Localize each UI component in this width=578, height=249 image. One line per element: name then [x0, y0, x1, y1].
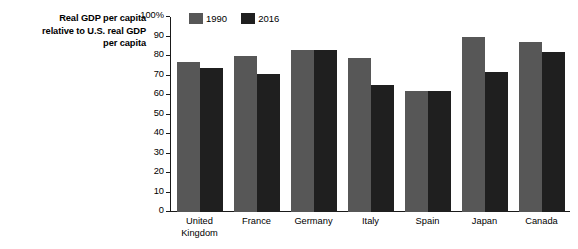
y-tick-label: 50 — [154, 107, 164, 120]
y-tick-60: 60 — [126, 94, 170, 95]
x-axis-label: Canada — [497, 215, 578, 227]
bar — [519, 42, 542, 212]
y-tick-30: 30 — [126, 153, 170, 154]
x-axis-label-line: Kingdom — [155, 227, 245, 239]
bar-group — [348, 17, 394, 212]
y-tick-label: 10 — [154, 185, 164, 198]
y-tick-40: 40 — [126, 133, 170, 134]
y-tick-label: 80 — [154, 48, 164, 61]
y-tick-20: 20 — [126, 172, 170, 173]
bar — [200, 68, 223, 212]
bar-group — [462, 17, 508, 212]
y-axis-label-line-3: per capita — [8, 37, 146, 50]
y-tick-mark — [166, 16, 170, 17]
y-tick-10: 10 — [126, 192, 170, 193]
bar — [291, 50, 314, 212]
y-tick-label: 40 — [154, 126, 164, 139]
y-tick-mark — [166, 75, 170, 76]
y-tick-100: 100% — [126, 16, 170, 17]
y-tick-label: 30 — [154, 146, 164, 159]
y-tick-label: 100% — [140, 9, 164, 22]
bar-group — [519, 17, 565, 212]
y-tick-label: 60 — [154, 87, 164, 100]
y-tick-label: 20 — [154, 165, 164, 178]
y-tick-mark — [166, 55, 170, 56]
y-tick-mark — [166, 192, 170, 193]
y-tick-label: 90 — [154, 29, 164, 42]
plot-area: 0102030405060708090100% UnitedKingdomFra… — [170, 17, 570, 212]
y-tick-mark — [166, 153, 170, 154]
y-tick-mark — [166, 94, 170, 95]
bar — [314, 50, 337, 212]
bar — [462, 37, 485, 213]
y-tick-mark — [166, 172, 170, 173]
bar — [234, 56, 257, 212]
y-tick-mark — [166, 133, 170, 134]
y-axis-label-line-1: Real GDP per capita — [8, 12, 146, 25]
y-axis-label: Real GDP per capita relative to U.S. rea… — [8, 12, 146, 50]
bar — [348, 58, 371, 212]
y-tick-50: 50 — [126, 114, 170, 115]
x-axis-label-line: Canada — [497, 215, 578, 227]
bar-group — [291, 17, 337, 212]
bar-group — [234, 17, 280, 212]
bar — [177, 62, 200, 212]
y-tick-0: 0 — [126, 211, 170, 212]
bar — [257, 74, 280, 212]
bar — [405, 91, 428, 212]
bar — [542, 52, 565, 212]
y-tick-mark — [166, 211, 170, 212]
y-tick-80: 80 — [126, 55, 170, 56]
y-tick-mark — [166, 36, 170, 37]
bars-layer — [171, 17, 570, 212]
bar — [371, 85, 394, 212]
bar-group — [405, 17, 451, 212]
y-tick-mark — [166, 114, 170, 115]
y-tick-label: 70 — [154, 68, 164, 81]
chart-figure: Real GDP per capita relative to U.S. rea… — [0, 0, 578, 249]
bar — [485, 72, 508, 212]
bar — [428, 91, 451, 212]
bar-group — [177, 17, 223, 212]
y-tick-70: 70 — [126, 75, 170, 76]
y-tick-90: 90 — [126, 36, 170, 37]
